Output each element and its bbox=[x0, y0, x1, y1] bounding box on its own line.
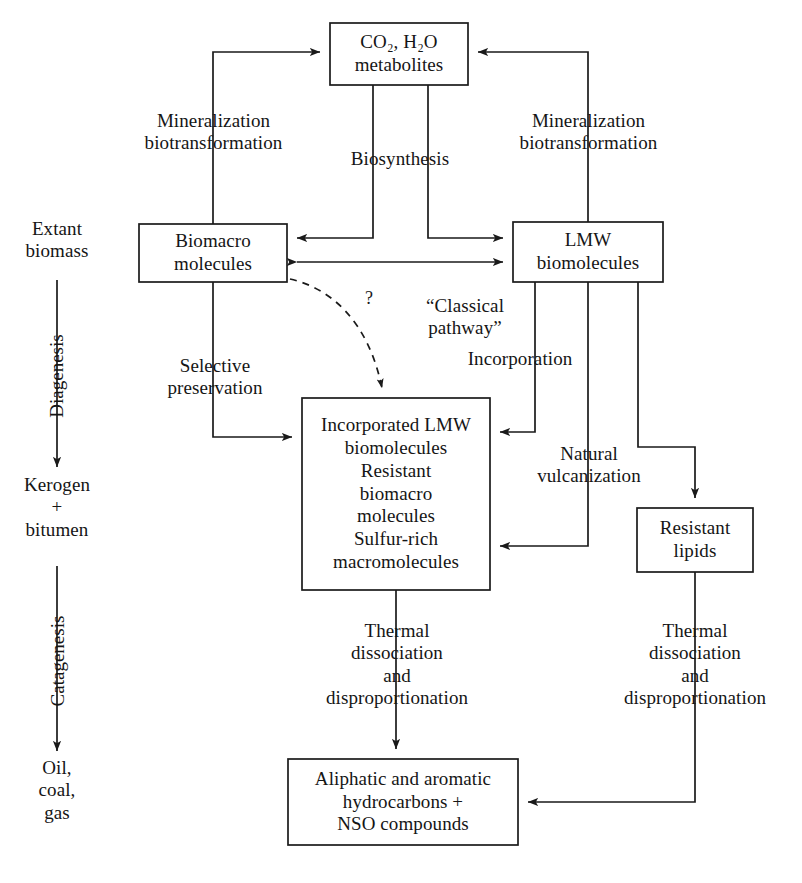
box-label-hydrocarbons: Aliphatic and aromatic hydrocarbons + NS… bbox=[288, 759, 518, 845]
process-label-selective-preservation: Selective preservation bbox=[140, 355, 290, 400]
timeline-arrow-label-catagenesis: Catagenesis bbox=[47, 599, 69, 724]
timeline-stage-extant-biomass: Extant biomass bbox=[2, 218, 112, 263]
box-label-incorporated-lmw: Incorporated LMW biomolecules Resistant … bbox=[302, 398, 490, 590]
process-label-mineralization-right: Mineralization biotransformation bbox=[496, 110, 681, 155]
process-label-biosynthesis: Biosynthesis bbox=[330, 148, 470, 170]
process-label-mineralization-left: Mineralization biotransformation bbox=[121, 110, 306, 155]
diagram-canvas: Extant biomass Diagenesis Kerogen + bitu… bbox=[0, 0, 802, 883]
box-label-co2: CO₂, H₂O metabolites bbox=[330, 23, 468, 85]
process-label-natural-vulcanization: Natural vulcanization bbox=[513, 443, 665, 488]
process-label-thermal-left: Thermal dissociation and disproportionat… bbox=[305, 620, 489, 710]
box-label-biomacro-molecules: Biomacro molecules bbox=[139, 224, 287, 282]
uncertainty-question-mark: ? bbox=[365, 288, 373, 309]
process-label-classical-pathway: “Classical pathway” bbox=[399, 295, 531, 340]
timeline-stage-oil-coal-gas: Oil, coal, gas bbox=[2, 757, 112, 824]
timeline-arrow-label-diagenesis: Diagenesis bbox=[46, 316, 68, 436]
process-label-thermal-right: Thermal dissociation and disproportionat… bbox=[603, 620, 787, 710]
timeline-stage-kerogen-bitumen: Kerogen + bitumen bbox=[2, 474, 112, 541]
process-label-incorporation: Incorporation bbox=[440, 348, 600, 370]
box-label-resistant-lipids: Resistant lipids bbox=[637, 508, 753, 572]
box-label-lmw-biomolecules: LMW biomolecules bbox=[513, 222, 663, 282]
